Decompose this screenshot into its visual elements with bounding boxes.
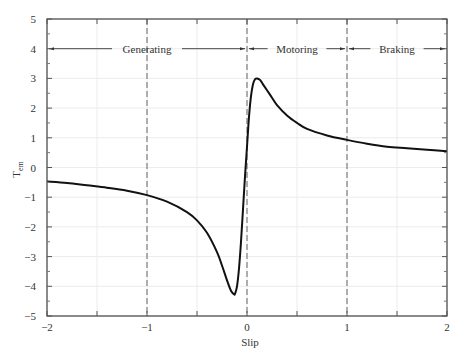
y-tick-label: 3 [31,72,37,84]
region-label: Motoring [276,43,318,55]
y-tick-label: −2 [24,221,36,233]
y-tick-label: 1 [31,132,37,144]
torque-slip-chart: GeneratingMotoringBraking 543210−1−2−3−4… [0,0,459,357]
y-axis-label: Tem [10,160,25,177]
y-axis-label-sub: em [16,160,25,171]
y-tick-label: −5 [24,310,36,322]
region-label: Braking [379,43,415,55]
y-tick-label: 4 [31,43,37,55]
x-tick-label: −2 [41,321,53,333]
y-tick-label: 5 [31,13,37,25]
region-generating: Generating [49,43,245,55]
y-tick-label: −3 [24,251,36,263]
region-motoring: Motoring [249,43,345,55]
x-tick-label: 0 [244,321,250,333]
x-tick-label: −1 [141,321,153,333]
region-label: Generating [123,43,172,55]
region-braking: Braking [349,43,445,55]
x-tick-label: 2 [444,321,450,333]
y-tick-label: −4 [24,280,36,292]
x-tick-label: 1 [344,321,350,333]
figure-caption [95,349,355,357]
y-tick-label: 2 [31,102,37,114]
x-axis-label: Slip [241,336,259,348]
y-tick-label: 0 [31,162,37,174]
y-tick-label: −1 [24,191,36,203]
